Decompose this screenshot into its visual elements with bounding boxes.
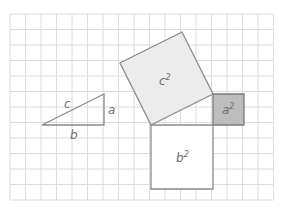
- right-triangle: [42, 94, 104, 125]
- a-squared-base: a: [222, 103, 229, 117]
- c-squared-exponent: 2: [166, 73, 171, 82]
- triangle-label-b: b: [70, 128, 78, 142]
- triangle-label-a: a: [108, 103, 115, 117]
- pythagoras-diagram: c a b c2 a2 b2: [0, 0, 293, 222]
- triangle-label-c: c: [64, 97, 71, 111]
- a-squared-exponent: 2: [229, 102, 234, 111]
- b-squared-exponent: 2: [184, 150, 189, 159]
